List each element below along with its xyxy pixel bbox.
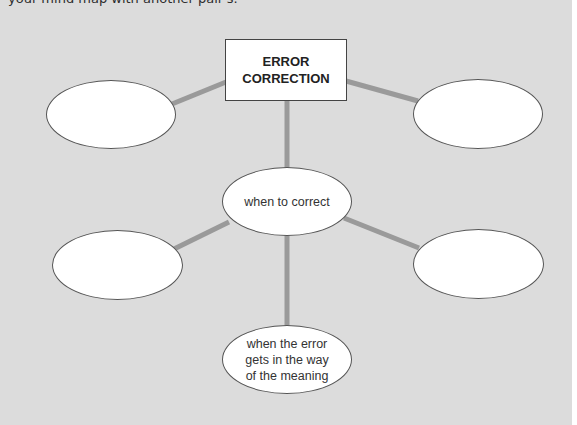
node-center: when to correct xyxy=(222,167,352,236)
node-bottom-left xyxy=(52,230,183,300)
connector-center-bottom-right xyxy=(344,218,419,248)
node-bottom-line3: of the meaning xyxy=(246,368,329,384)
central-topic-line1: ERROR xyxy=(263,53,310,70)
central-topic-box: ERROR CORRECTION xyxy=(225,39,347,101)
node-top-left xyxy=(46,80,176,149)
node-bottom: when the error gets in the way of the me… xyxy=(222,325,352,394)
node-top-right xyxy=(413,79,543,149)
node-bottom-line2: gets in the way xyxy=(245,352,328,368)
connector-topic-top-right xyxy=(346,81,418,101)
node-bottom-right xyxy=(413,229,544,299)
node-bottom-line1: when the error xyxy=(247,336,328,352)
node-center-label: when to correct xyxy=(244,194,329,210)
connector-topic-top-left xyxy=(172,82,226,104)
central-topic-line2: CORRECTION xyxy=(242,70,329,87)
connector-center-bottom-left xyxy=(174,222,229,249)
